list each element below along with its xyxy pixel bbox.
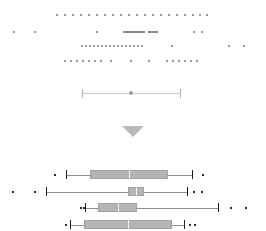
data-point [199,14,201,16]
data-point [192,14,194,16]
data-point [97,45,99,47]
outlier-point [202,174,204,176]
statistical-figure [0,0,266,231]
outlier-point [65,224,67,226]
data-point [81,45,83,47]
data-point [88,60,90,62]
data-point [56,14,58,16]
data-point [13,31,15,33]
data-point [125,45,127,47]
outlier-point [245,207,247,209]
median-line [128,220,129,229]
data-point [117,45,119,47]
whisker-cap-high [184,220,185,229]
data-point [136,14,138,16]
data-point [93,45,95,47]
data-point [184,14,186,16]
interval-cap-high [180,89,181,98]
outlier-point [80,207,82,209]
whisker-cap-low [85,203,86,212]
median-line [129,170,130,179]
data-point [130,60,132,62]
data-point [172,60,174,62]
data-point [105,45,107,47]
data-point [166,60,168,62]
data-point [88,14,90,16]
data-point [112,14,114,16]
outlier-point [83,207,85,209]
data-point [196,60,198,62]
data-point [82,60,84,62]
data-point [129,45,131,47]
data-point [160,14,162,16]
data-point [120,14,122,16]
data-point [128,14,130,16]
median-line [136,187,137,196]
outlier-point [12,191,14,193]
data-point [193,31,195,33]
data-point [113,45,115,47]
whisker-cap-high [187,187,188,196]
outlier-point [193,191,195,193]
data-point [178,60,180,62]
outlier-point [189,224,191,226]
data-point [76,60,78,62]
data-point [70,60,72,62]
data-point [96,31,98,33]
data-point [184,60,186,62]
outlier-point [201,191,203,193]
whisker-cap-low [70,220,71,229]
data-point [85,45,87,47]
data-point [206,14,208,16]
data-point [152,14,154,16]
data-point [110,60,112,62]
data-point [168,14,170,16]
whisker-cap-low [46,187,47,196]
outlier-point [54,174,56,176]
data-point [80,14,82,16]
data-point [133,45,135,47]
interval-center-marker [129,91,133,95]
whisker-cap-low [66,170,67,179]
data-point [143,31,145,33]
outlier-point [230,207,232,209]
data-point [100,60,102,62]
data-point [228,45,230,47]
data-point [34,31,36,33]
interval-cap-low [82,89,83,98]
data-point [94,60,96,62]
whisker-line [46,192,187,193]
data-point [64,60,66,62]
data-point [137,45,139,47]
data-point [243,45,245,47]
data-point [171,45,173,47]
data-point [89,45,91,47]
data-point [121,45,123,47]
data-point [104,14,106,16]
data-point [72,14,74,16]
whisker-cap-high [192,170,193,179]
data-point [156,31,158,33]
data-point [190,60,192,62]
data-point [148,60,150,62]
median-line [118,203,119,212]
whisker-cap-high [218,203,219,212]
data-point [141,45,143,47]
data-point [176,14,178,16]
outlier-point [34,191,36,193]
data-point [109,45,111,47]
outlier-point [194,224,196,226]
data-point [64,14,66,16]
data-point [144,14,146,16]
triangle-down-icon [122,126,144,137]
data-point [201,31,203,33]
data-point [101,45,103,47]
data-point [96,14,98,16]
